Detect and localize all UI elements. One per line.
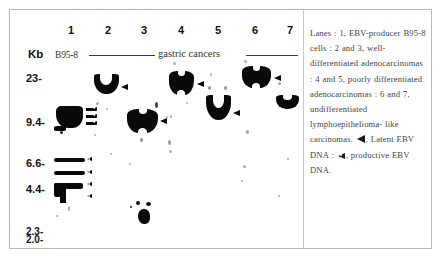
filled-left-triangle-icon: [357, 135, 365, 143]
filled-arrow-icon-lane3: [160, 118, 167, 124]
speck: [96, 102, 99, 105]
speck: [129, 163, 131, 165]
speck: [166, 116, 168, 118]
band-lane2-notch: [100, 72, 112, 85]
band-lane4-notch-top: [178, 69, 185, 76]
speck: [169, 150, 172, 153]
caption-line-5: 5, poorly differentiated: [338, 74, 422, 84]
figure-caption: Lanes : 1, EBV-producer B95-8 cells : 2 …: [310, 26, 426, 178]
mw-marker-2-0: 2.0-: [26, 234, 43, 245]
speck: [168, 140, 171, 145]
mw-marker-4-4: 4.4-: [26, 183, 45, 195]
speck: [278, 82, 281, 85]
mw-marker-23: 23-: [26, 72, 42, 84]
group-rule-right: [246, 55, 298, 56]
speck: [110, 153, 112, 155]
filled-arrow-icon-lane2: [121, 84, 128, 90]
band-lane5-notch: [213, 93, 224, 108]
lane-number-3: 3: [135, 24, 153, 36]
speck: [208, 86, 211, 90]
band-lane1-6-6kb: [54, 158, 85, 162]
speck: [136, 201, 140, 205]
speck: [130, 206, 132, 208]
speck: [155, 102, 158, 108]
sample-label-b958: B95-8: [55, 50, 78, 60]
caption-panel: Lanes : 1, EBV-producer B95-8 cells : 2 …: [303, 10, 432, 248]
speck: [246, 130, 249, 134]
band-lane3-smudge: [138, 209, 150, 224]
lane-number-4: 4: [172, 24, 190, 36]
speck: [56, 215, 58, 217]
lane-number-2: 2: [99, 24, 117, 36]
caption-line-9-post: ,: [366, 134, 368, 144]
speck: [186, 102, 188, 104]
open-arrow-icon-lane1-c: [92, 121, 97, 125]
band-lane6-notch-bottom: [252, 83, 260, 90]
lane-number-6: 6: [246, 24, 264, 36]
caption-line-8: lymphoepithelioma-: [310, 119, 382, 129]
speck: [278, 195, 280, 197]
group-label-gastric-cancers: gastric cancers: [158, 48, 220, 59]
band-lane1-5-5kb: [54, 171, 85, 175]
caption-line-1: Lanes : 1, EBV-producer: [310, 28, 401, 38]
speck: [287, 158, 289, 160]
caption-line-6: adenocarcinomas : 6: [310, 89, 384, 99]
filled-arrow-icon-lane4: [197, 81, 204, 87]
mw-marker-6-6: 6.6-: [26, 157, 45, 169]
gel-image-panel: 1 2 3 4 5 6 7 Kb B95-8 gastric cancers 2…: [10, 10, 300, 248]
kb-axis-label: Kb: [28, 48, 43, 60]
open-arrow-icon-lane1-5-5: [87, 170, 92, 174]
mw-marker-9-4: 9.4-: [26, 116, 45, 128]
band-lane1-4-4kb-left: [54, 183, 61, 197]
lane-number-1: 1: [62, 24, 80, 36]
filled-arrow-icon-lane5: [233, 110, 240, 116]
speck: [243, 165, 246, 168]
speck: [68, 206, 70, 211]
speck: [146, 202, 151, 206]
lane-number-7: 7: [281, 24, 299, 36]
band-lane3-notch-top: [139, 107, 147, 114]
band-lane1-9-4kb: [56, 106, 83, 128]
lane-number-5: 5: [209, 24, 227, 36]
band-lane4-notch-bottom: [177, 90, 185, 97]
open-left-triangle-icon: [338, 153, 345, 159]
band-lane3-notch-bottom: [138, 128, 147, 136]
figure-root: 1 2 3 4 5 6 7 Kb B95-8 gastric cancers 2…: [0, 0, 442, 259]
group-rule-left: [89, 55, 155, 56]
open-arrow-icon-lane1-4-4: [87, 182, 92, 186]
speck: [241, 180, 243, 182]
open-arrow-icon-lane1-6-6: [87, 157, 92, 161]
band-lane6-notch-top: [253, 64, 260, 71]
band-lane7-notch: [283, 93, 292, 100]
speck: [94, 134, 96, 136]
speck: [170, 115, 172, 118]
caption-line-10-post: ,: [346, 150, 348, 160]
speck: [140, 138, 143, 142]
open-arrow-icon-lane1-a: [92, 107, 97, 111]
speck: [60, 131, 63, 134]
open-arrow-icon-lane1-3-8: [87, 194, 92, 198]
speck: [224, 86, 227, 90]
speck: [173, 62, 176, 65]
open-arrow-icon-lane1-b: [92, 114, 97, 118]
filled-arrow-icon-lane6: [274, 75, 281, 81]
speck: [244, 60, 247, 63]
speck: [210, 73, 212, 76]
speck: [106, 108, 108, 110]
